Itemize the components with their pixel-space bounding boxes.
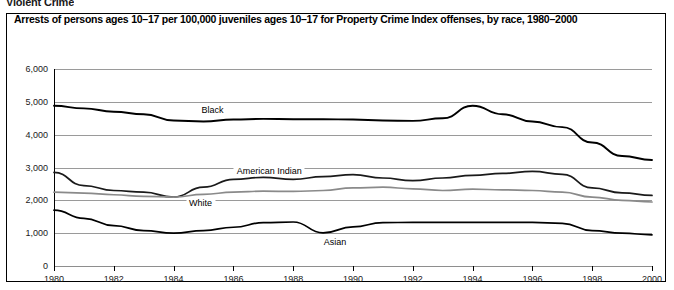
running-head: Violent Crime bbox=[6, 0, 74, 8]
figure-page: Violent Crime Arrests of persons ages 10… bbox=[0, 0, 674, 290]
x-tick-label-1984: 1984 bbox=[164, 274, 184, 284]
y-tick-label-5000: 5,000 bbox=[2, 97, 48, 107]
x-tick-2000 bbox=[652, 266, 653, 271]
x-tick-1990 bbox=[353, 266, 354, 271]
x-tick-label-1986: 1986 bbox=[223, 274, 243, 284]
x-tick-label-1992: 1992 bbox=[403, 274, 423, 284]
series-line-black bbox=[54, 106, 652, 160]
x-tick-1994 bbox=[473, 266, 474, 271]
x-tick-label-1988: 1988 bbox=[283, 274, 303, 284]
x-axis-ticks bbox=[54, 266, 652, 272]
x-tick-1996 bbox=[532, 266, 533, 271]
y-tick-label-4000: 4,000 bbox=[2, 130, 48, 140]
x-tick-label-1990: 1990 bbox=[343, 274, 363, 284]
x-tick-label-1996: 1996 bbox=[522, 274, 542, 284]
y-tick-label-0: 0 bbox=[2, 261, 48, 271]
series-label-white: White bbox=[186, 198, 215, 208]
x-tick-label-1980: 1980 bbox=[44, 274, 64, 284]
y-tick-label-1000: 1,000 bbox=[2, 228, 48, 238]
series-label-black: Black bbox=[198, 105, 226, 115]
y-tick-label-2000: 2,000 bbox=[2, 195, 48, 205]
series-label-american-indian: American Indian bbox=[234, 166, 305, 176]
series-line-american-indian bbox=[54, 171, 652, 197]
y-axis-tick-labels: 01,0002,0003,0004,0005,0006,000 bbox=[0, 69, 48, 266]
x-tick-1992 bbox=[413, 266, 414, 271]
x-tick-1986 bbox=[233, 266, 234, 271]
x-tick-1984 bbox=[174, 266, 175, 271]
series-lines bbox=[54, 69, 652, 266]
series-label-asian: Asian bbox=[321, 237, 350, 247]
x-tick-label-1998: 1998 bbox=[582, 274, 602, 284]
x-tick-1998 bbox=[592, 266, 593, 271]
x-tick-1982 bbox=[114, 266, 115, 271]
x-tick-label-2000: 2000 bbox=[642, 274, 662, 284]
y-tick-label-6000: 6,000 bbox=[2, 64, 48, 74]
x-tick-label-1982: 1982 bbox=[104, 274, 124, 284]
x-tick-1980 bbox=[54, 266, 55, 271]
x-axis-tick-labels: 1980198219841986198819901992199419961998… bbox=[54, 274, 652, 286]
series-line-asian bbox=[54, 210, 652, 235]
series-line-white bbox=[54, 187, 652, 202]
figure-title: Arrests of persons ages 10–17 per 100,00… bbox=[14, 13, 644, 25]
x-tick-label-1994: 1994 bbox=[463, 274, 483, 284]
x-tick-1988 bbox=[293, 266, 294, 271]
y-tick-label-3000: 3,000 bbox=[2, 163, 48, 173]
